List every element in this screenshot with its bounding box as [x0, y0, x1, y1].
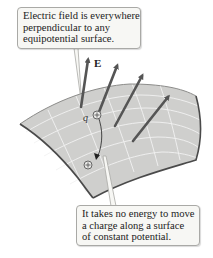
perpendicular-field-callout: Electric field is everywhere perpendicul… [17, 7, 141, 49]
callout-line: equipotential surface. [23, 33, 136, 45]
charge-label: q [83, 112, 88, 123]
charge-end-icon [84, 161, 92, 169]
callout-line: a charge along a surface [82, 220, 195, 232]
callout-line: perpendicular to any [23, 22, 136, 34]
callout-line: Electric field is everywhere [23, 10, 136, 22]
field-label: E [94, 57, 101, 69]
callout-line: It takes no energy to move [82, 208, 195, 220]
equipotential-diagram: E q Electric field is everywhere perpend… [0, 0, 213, 258]
no-energy-callout: It takes no energy to move a charge alon… [76, 205, 200, 246]
charge-start-icon [93, 111, 101, 119]
callout-line: of constant potential. [82, 231, 195, 243]
